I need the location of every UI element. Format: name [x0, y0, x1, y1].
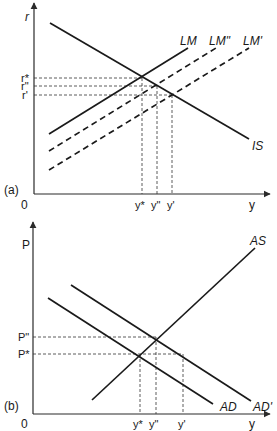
- panel-a-x-axis-label: y: [249, 198, 255, 212]
- ad-prime-curve: [71, 285, 251, 401]
- as-label: AS: [249, 234, 266, 248]
- panel-b-y-axis-label: P: [22, 238, 30, 252]
- panel-a-y-axis-label: r: [25, 10, 30, 24]
- lm-prime-label: LM': [243, 34, 263, 48]
- panel-b-adas: P AS AD AD' P" P* y* y" y' y 0 (b): [4, 222, 273, 431]
- panel-a-y-star-tick: y*: [135, 199, 146, 211]
- p-double-prime-tick: P": [18, 331, 29, 343]
- panel-b-y-star-tick: y*: [133, 418, 144, 430]
- ad-label: AD: [219, 400, 237, 414]
- ad-prime-label: AD': [252, 400, 273, 414]
- p-star-tick: P*: [18, 348, 30, 360]
- lm-double-prime-curve: [49, 48, 216, 151]
- panel-a-islm: r LM LM" LM' IS r* r" r' y* y" y' y 0 (a…: [4, 3, 270, 212]
- ad-curve: [48, 298, 213, 404]
- is-label: IS: [252, 139, 263, 153]
- panel-a-y-prime-tick: y': [167, 199, 175, 211]
- lm-label: LM: [180, 34, 197, 48]
- panel-a-origin: 0: [21, 198, 28, 212]
- panel-b-y-double-prime-tick: y": [149, 418, 159, 430]
- r-prime-tick: r': [22, 89, 28, 101]
- panel-a-y-double-prime-tick: y": [151, 199, 161, 211]
- islm-adas-figure: r LM LM" LM' IS r* r" r' y* y" y' y 0 (a…: [0, 0, 277, 431]
- panel-a-tag: (a): [4, 183, 19, 197]
- lm-prime-curve: [49, 48, 249, 170]
- panel-b-y-prime-tick: y': [178, 418, 186, 430]
- panel-b-tag: (b): [4, 399, 19, 413]
- panel-b-origin: 0: [21, 417, 28, 431]
- as-curve: [92, 248, 255, 400]
- lm-double-prime-label: LM": [209, 34, 231, 48]
- panel-b-x-axis-label: y: [249, 417, 255, 431]
